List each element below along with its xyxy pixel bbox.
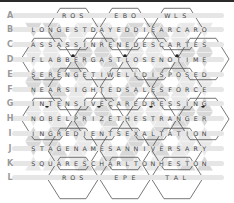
letter-cell[interactable]: A bbox=[172, 172, 181, 183]
letter-cell[interactable]: E bbox=[63, 143, 72, 154]
letter-cell[interactable]: N bbox=[200, 158, 209, 169]
letter-cell[interactable]: R bbox=[174, 39, 183, 50]
letter-cell[interactable]: I bbox=[183, 128, 192, 139]
letter-cell[interactable]: T bbox=[157, 128, 166, 139]
letter-cell[interactable]: N bbox=[38, 128, 47, 139]
letter-cell[interactable]: E bbox=[114, 24, 123, 35]
letter-cell[interactable]: E bbox=[123, 39, 132, 50]
letter-cell[interactable]: O bbox=[174, 84, 183, 95]
letter-cell[interactable]: T bbox=[174, 128, 183, 139]
letter-cell[interactable]: N bbox=[132, 143, 141, 154]
letter-cell[interactable]: E bbox=[63, 24, 72, 35]
letter-cell[interactable]: T bbox=[89, 69, 98, 80]
letter-cell[interactable]: P bbox=[121, 172, 130, 183]
letter-cell[interactable]: E bbox=[55, 69, 64, 80]
letter-cell[interactable]: S bbox=[72, 98, 81, 109]
letter-cell[interactable]: S bbox=[106, 143, 115, 154]
letter-cell[interactable]: T bbox=[174, 54, 183, 65]
letter-cell[interactable]: N bbox=[123, 143, 132, 154]
letter-cell[interactable]: I bbox=[89, 113, 98, 124]
letter-cell[interactable]: N bbox=[191, 98, 200, 109]
letter-cell[interactable]: A bbox=[166, 39, 175, 50]
letter-cell[interactable]: R bbox=[80, 54, 89, 65]
letter-cell[interactable]: N bbox=[149, 158, 158, 169]
letter-cell[interactable]: I bbox=[149, 69, 158, 80]
letter-cell[interactable]: D bbox=[123, 24, 132, 35]
letter-cell[interactable]: E bbox=[55, 98, 64, 109]
letter-cell[interactable]: D bbox=[114, 84, 123, 95]
letter-cell[interactable]: O bbox=[140, 158, 149, 169]
letter-cell[interactable]: S bbox=[29, 69, 38, 80]
letter-cell[interactable]: A bbox=[157, 24, 166, 35]
letter-cell[interactable]: T bbox=[183, 158, 192, 169]
letter-cell[interactable]: E bbox=[112, 10, 121, 21]
letter-cell[interactable]: N bbox=[89, 39, 98, 50]
letter-cell[interactable]: A bbox=[114, 143, 123, 154]
letter-cell[interactable]: A bbox=[46, 143, 55, 154]
letter-cell[interactable]: A bbox=[166, 113, 175, 124]
letter-cell[interactable]: T bbox=[183, 39, 192, 50]
letter-cell[interactable]: L bbox=[123, 69, 132, 80]
letter-cell[interactable]: T bbox=[149, 113, 158, 124]
letter-cell[interactable]: A bbox=[114, 98, 123, 109]
letter-cell[interactable]: R bbox=[46, 69, 55, 80]
letter-cell[interactable]: E bbox=[72, 158, 81, 169]
letter-cell[interactable]: T bbox=[132, 158, 141, 169]
letter-cell[interactable]: L bbox=[123, 158, 132, 169]
letter-cell[interactable]: E bbox=[80, 69, 89, 80]
letter-cell[interactable]: D bbox=[200, 69, 209, 80]
letter-cell[interactable]: V bbox=[89, 98, 98, 109]
letter-cell[interactable]: E bbox=[149, 24, 158, 35]
letter-cell[interactable]: N bbox=[63, 69, 72, 80]
letter-cell[interactable]: A bbox=[166, 128, 175, 139]
letter-cell[interactable]: E bbox=[157, 143, 166, 154]
letter-cell[interactable]: E bbox=[149, 84, 158, 95]
letter-cell[interactable]: E bbox=[89, 128, 98, 139]
letter-cell[interactable]: W bbox=[163, 10, 172, 21]
letter-cell[interactable]: E bbox=[97, 143, 106, 154]
letter-cell[interactable]: L bbox=[63, 113, 72, 124]
letter-cell[interactable]: A bbox=[80, 143, 89, 154]
letter-cell[interactable]: E bbox=[129, 172, 138, 183]
letter-cell[interactable]: S bbox=[174, 158, 183, 169]
letter-cell[interactable]: N bbox=[157, 54, 166, 65]
letter-cell[interactable]: I bbox=[72, 84, 81, 95]
letter-cell[interactable]: I bbox=[97, 69, 106, 80]
letter-cell[interactable]: B bbox=[63, 54, 72, 65]
letter-cell[interactable]: T bbox=[38, 143, 47, 154]
letter-cell[interactable]: G bbox=[46, 128, 55, 139]
letter-cell[interactable]: R bbox=[166, 24, 175, 35]
letter-cell[interactable]: Z bbox=[97, 113, 106, 124]
letter-cell[interactable]: O bbox=[191, 158, 200, 169]
letter-cell[interactable]: E bbox=[106, 84, 115, 95]
letter-cell[interactable]: D bbox=[72, 128, 81, 139]
letter-cell[interactable]: R bbox=[55, 128, 64, 139]
letter-cell[interactable]: E bbox=[112, 172, 121, 183]
letter-cell[interactable]: E bbox=[72, 54, 81, 65]
letter-cell[interactable]: S bbox=[106, 54, 115, 65]
letter-cell[interactable]: L bbox=[149, 128, 158, 139]
letter-cell[interactable]: T bbox=[114, 113, 123, 124]
letter-cell[interactable]: S bbox=[180, 10, 189, 21]
letter-cell[interactable]: E bbox=[140, 39, 149, 50]
letter-cell[interactable]: S bbox=[157, 84, 166, 95]
letter-cell[interactable]: A bbox=[46, 54, 55, 65]
letter-cell[interactable]: L bbox=[29, 24, 38, 35]
letter-cell[interactable]: E bbox=[97, 98, 106, 109]
letter-cell[interactable]: D bbox=[132, 39, 141, 50]
letter-cell[interactable]: S bbox=[29, 158, 38, 169]
letter-cell[interactable]: V bbox=[149, 143, 158, 154]
letter-cell[interactable]: E bbox=[149, 54, 158, 65]
letter-cell[interactable]: C bbox=[174, 24, 183, 35]
letter-cell[interactable]: S bbox=[72, 39, 81, 50]
letter-cell[interactable]: E bbox=[191, 113, 200, 124]
letter-cell[interactable]: H bbox=[157, 158, 166, 169]
letter-cell[interactable]: A bbox=[106, 158, 115, 169]
letter-cell[interactable]: S bbox=[77, 10, 86, 21]
letter-cell[interactable]: E bbox=[166, 158, 175, 169]
letter-cell[interactable]: T bbox=[163, 172, 172, 183]
letter-cell[interactable]: G bbox=[89, 54, 98, 65]
letter-cell[interactable]: N bbox=[174, 113, 183, 124]
letter-cell[interactable]: G bbox=[72, 69, 81, 80]
letter-cell[interactable]: E bbox=[157, 98, 166, 109]
